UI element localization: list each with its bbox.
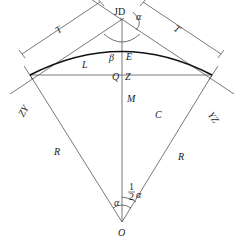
label-JD: JD	[114, 6, 125, 17]
dimension-T-right	[143, 2, 221, 54]
curve-diagram: JD α T T β E L Q Z M C ZY YZ R R 1 2 α α…	[0, 0, 243, 242]
dimension-T-left	[22, 2, 100, 54]
label-YZ: YZ	[206, 109, 222, 125]
label-Q: Q	[112, 71, 120, 82]
label-Z: Z	[125, 71, 131, 82]
label-beta: β	[108, 52, 114, 63]
label-alpha-center: α	[114, 197, 120, 208]
label-T-right: T	[172, 23, 184, 36]
label-M: M	[126, 93, 136, 104]
label-ZY: ZY	[16, 102, 32, 118]
label-half-alpha: α	[136, 189, 142, 200]
label-C: C	[155, 109, 162, 120]
label-E: E	[125, 51, 132, 62]
label-half-den: 2	[129, 191, 134, 202]
label-L: L	[81, 59, 88, 70]
label-R-left: R	[53, 146, 60, 157]
radius-left	[30, 75, 122, 222]
circular-curve	[30, 52, 212, 76]
label-O: O	[118, 227, 125, 238]
label-T-left: T	[53, 23, 65, 36]
label-alpha: α	[136, 11, 142, 22]
tangent-line-left	[10, 18, 124, 94]
label-R-right: R	[177, 151, 184, 162]
